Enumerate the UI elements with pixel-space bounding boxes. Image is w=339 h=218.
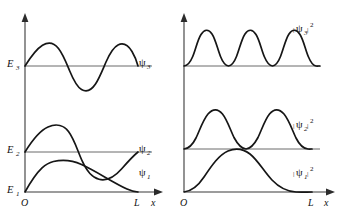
left-energy-axis-arrowhead	[22, 13, 29, 22]
left-well-width-label: L	[133, 197, 140, 208]
label-psi-2-squared-symbol: ψ	[296, 119, 303, 130]
label-psi-3-squared-exponent: 2	[310, 21, 314, 29]
label-energy-e2-subscript: 2	[16, 150, 20, 158]
label-psi-2-subscript: 2	[147, 149, 151, 157]
label-psi-3-symbol: ψ	[139, 57, 146, 68]
label-energy-e1: E 1	[6, 184, 20, 198]
label-psi-2-squared: | ψ 2 | 2	[293, 117, 314, 133]
label-energy-e3-subscript: 3	[15, 64, 20, 72]
label-psi-3-squared-symbol: ψ	[296, 23, 303, 34]
label-energy-e3: E 3	[6, 58, 20, 72]
label-energy-e2-letter: E	[6, 144, 14, 155]
right-x-axis-arrowhead	[326, 189, 335, 196]
label-psi-2-symbol: ψ	[139, 143, 146, 154]
left-panel-wavefunctions: E 1 E 2 E 3 O L x ψ 1 ψ 2	[6, 13, 163, 208]
label-psi-3-subscript: 3	[146, 63, 151, 71]
left-origin-label: O	[21, 197, 28, 208]
label-psi-1-squared-openbar: |	[293, 170, 294, 178]
quantum-well-figure: E 1 E 2 E 3 O L x ψ 1 ψ 2	[0, 0, 339, 218]
label-psi-1-subscript: 1	[147, 173, 151, 181]
left-x-axis-arrowhead	[154, 189, 163, 196]
label-psi-3: ψ 3	[139, 57, 151, 71]
label-psi-3-squared: | ψ 3 | 2	[293, 21, 314, 37]
label-psi-2-squared-closebar: |	[307, 122, 308, 130]
label-psi-1: ψ 1	[139, 167, 151, 181]
label-psi-1-squared-symbol: ψ	[296, 167, 303, 178]
label-psi-2-squared-exponent: 2	[310, 117, 314, 125]
label-energy-e1-letter: E	[6, 184, 14, 195]
label-psi-3-squared-openbar: |	[293, 26, 294, 34]
label-psi-1-squared: | ψ 1 | 2	[293, 165, 314, 181]
label-psi-1-squared-closebar: |	[307, 170, 308, 178]
label-energy-e1-subscript: 1	[16, 190, 20, 198]
right-vertical-axis-arrowhead	[181, 13, 188, 22]
label-psi-1-squared-exponent: 2	[310, 165, 314, 173]
curve-psi-3	[25, 43, 138, 91]
label-psi-2: ψ 2	[139, 143, 151, 157]
right-panel-probability: O L x | ψ 1 | 2 | ψ 2 | 2 | ψ 3 |	[180, 13, 335, 208]
curve-psi-1	[25, 160, 138, 192]
label-psi-2-squared-openbar: |	[293, 122, 294, 130]
label-psi-1-symbol: ψ	[139, 167, 146, 178]
right-origin-label: O	[180, 197, 187, 208]
label-energy-e3-letter: E	[6, 58, 14, 69]
label-energy-e2: E 2	[6, 144, 20, 158]
left-x-axis-label: x	[150, 197, 156, 208]
curve-psi-3-squared	[184, 30, 320, 66]
right-well-width-label: L	[307, 197, 314, 208]
right-x-axis-label: x	[323, 197, 329, 208]
label-psi-3-squared-closebar: |	[307, 26, 308, 34]
figure-canvas: E 1 E 2 E 3 O L x ψ 1 ψ 2	[0, 0, 339, 218]
